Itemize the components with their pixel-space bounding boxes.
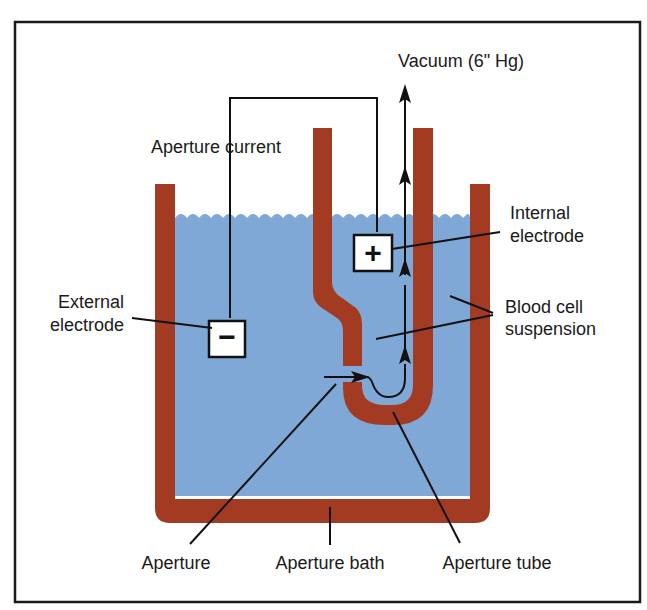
- aperture-label: Aperture: [141, 553, 210, 573]
- external-electrode-label-line1: External: [58, 292, 124, 312]
- internal-electrode: +: [354, 235, 392, 271]
- aperture-bath-label: Aperture bath: [275, 553, 384, 573]
- aperture-current-label: Aperture current: [151, 137, 281, 157]
- aperture-tube-label: Aperture tube: [442, 553, 551, 573]
- vacuum-label: Vacuum (6" Hg): [398, 51, 524, 71]
- blood-cell-suspension-label-line1: Blood cell: [505, 297, 583, 317]
- internal-electrode-label-line1: Internal: [510, 203, 570, 223]
- external-electrode: −: [209, 320, 245, 357]
- positive-symbol: +: [364, 236, 382, 269]
- internal-electrode-label-line2: electrode: [510, 226, 584, 246]
- negative-symbol: −: [218, 320, 236, 353]
- coulter-counter-diagram: − + Vacuum (6" Hg) Aperture current Inte…: [0, 0, 647, 610]
- blood-cell-suspension-label-line2: suspension: [505, 319, 596, 339]
- external-electrode-label-line2: electrode: [50, 315, 124, 335]
